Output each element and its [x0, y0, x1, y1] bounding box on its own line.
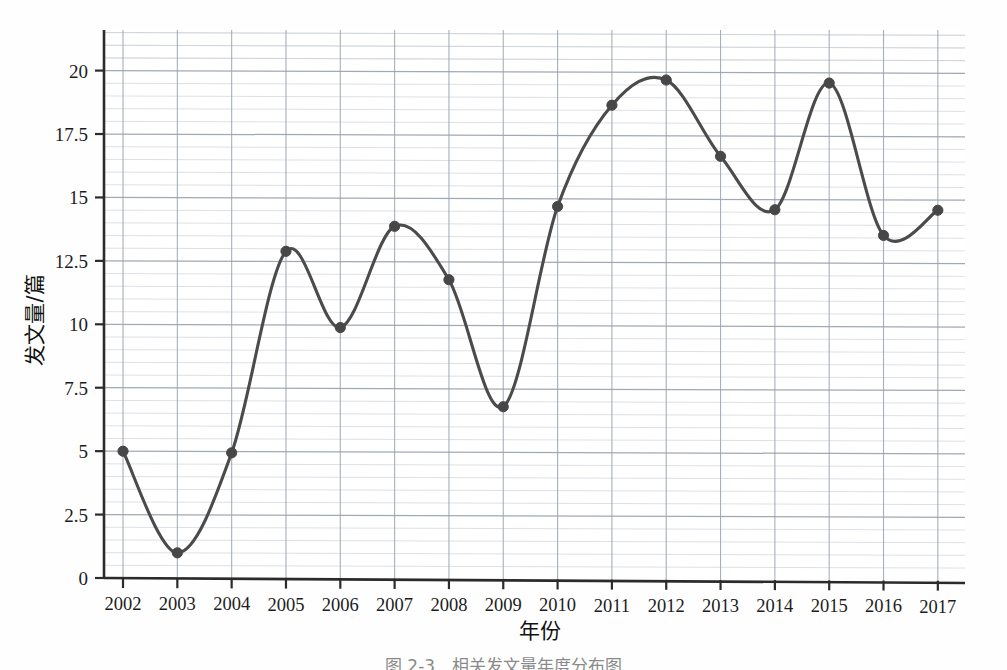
x-axis-line: [104, 578, 965, 583]
data-point-2011: [607, 100, 617, 110]
y-tick-label: 2.5: [64, 505, 88, 526]
y-axis-tick-labels: 02.557.51012.51517.520: [55, 61, 88, 589]
y-tick-label: 12.5: [55, 251, 88, 272]
y-tick-label: 20: [69, 61, 88, 82]
y-tick-label: 15: [69, 187, 88, 208]
x-tick-label: 2006: [322, 595, 359, 615]
data-point-2010: [552, 201, 562, 211]
data-point-2007: [390, 221, 400, 231]
x-tick-label: 2009: [485, 595, 522, 615]
data-point-2008: [444, 275, 454, 285]
figure-caption: 图 2-3 相关发文量年度分布图: [0, 652, 1007, 670]
x-axis-title: 年份: [519, 619, 561, 643]
data-point-2017: [933, 205, 943, 215]
data-point-2002: [118, 446, 128, 456]
x-tick-label: 2017: [919, 597, 956, 617]
data-point-2014: [770, 205, 780, 215]
x-tick-label: 2005: [267, 595, 304, 615]
x-tick-label: 2013: [702, 596, 739, 616]
x-tick-label: 2003: [159, 594, 196, 614]
x-tick-label: 2007: [376, 595, 413, 615]
x-tick-label: 2010: [539, 595, 576, 615]
data-point-2015: [824, 78, 834, 88]
y-axis-ticks: [95, 71, 104, 578]
x-axis-tick-labels: 2002200320042005200620072008200920102011…: [105, 594, 957, 617]
data-point-2016: [878, 230, 888, 240]
x-tick-label: 2015: [811, 596, 848, 616]
x-tick-label: 2008: [430, 595, 467, 615]
y-tick-label: 10: [69, 314, 88, 335]
x-tick-label: 2002: [105, 594, 142, 614]
x-tick-label: 2014: [756, 596, 793, 616]
line-chart-canvas: 02.557.51012.51517.520 20022003200420052…: [0, 0, 1007, 670]
y-tick-label: 17.5: [55, 124, 88, 145]
y-tick-label: 0: [79, 568, 89, 589]
x-tick-label: 2016: [865, 596, 902, 616]
figure-root: 02.557.51012.51517.520 20022003200420052…: [0, 0, 1007, 670]
y-axis-title: 发文量/篇: [23, 274, 47, 365]
y-tick-label: 7.5: [64, 378, 88, 399]
x-tick-label: 2012: [648, 596, 685, 616]
x-tick-label: 2011: [594, 596, 630, 616]
data-point-2005: [281, 246, 291, 256]
data-point-2012: [661, 75, 671, 85]
x-tick-label: 2004: [213, 594, 250, 614]
data-point-2013: [715, 151, 725, 161]
data-point-2006: [335, 322, 345, 332]
data-point-2009: [498, 402, 508, 412]
y-tick-label: 5: [79, 441, 89, 462]
data-point-2004: [227, 448, 237, 458]
data-point-2003: [172, 548, 182, 558]
